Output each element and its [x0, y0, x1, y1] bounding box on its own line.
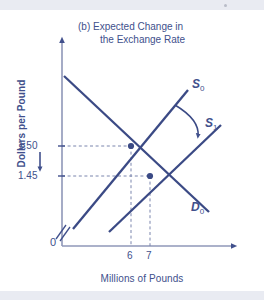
supply-shift-arrow: [175, 105, 198, 136]
demand-curve-d0: [64, 76, 209, 212]
demand-d0-subscript: 0: [200, 207, 204, 216]
x-axis-title: Millions of Pounds: [62, 273, 222, 284]
guide-lines: [62, 146, 150, 246]
y-axis-title: Dollars per Pound: [16, 65, 27, 183]
equilibrium-point-initial: [128, 143, 134, 149]
demand-d0-letter: D: [191, 200, 200, 214]
supply-s1-subscript: 1: [213, 123, 217, 132]
supply-s1-letter: S: [205, 116, 213, 130]
x-tick-label-6: 6: [127, 250, 133, 261]
demand-curve-d0-label: D0: [191, 200, 204, 216]
chart-title-line-2: the Exchange Rate: [78, 33, 246, 46]
y-tick-label-145: 1.45: [18, 170, 37, 181]
x-tick-label-7: 7: [146, 250, 152, 261]
supply-curve-s1-label: S1: [205, 116, 217, 132]
chart-title: (b) Expected Change in the Exchange Rate: [78, 20, 246, 46]
supply-s0-subscript: 0: [200, 84, 204, 93]
chart-title-line-1: (b) Expected Change in: [78, 20, 246, 33]
equilibrium-point-new: [147, 173, 153, 179]
supply-s0-letter: S: [192, 77, 200, 91]
supply-curve-s0-label: S0: [192, 77, 204, 93]
figure-container: (b) Expected Change in the Exchange Rate…: [0, 0, 264, 300]
origin-label: 0: [50, 236, 56, 248]
supply-curve-s1: [109, 125, 221, 232]
y-tick-label-150: 1.50: [18, 140, 37, 151]
axis-break-mark: [56, 225, 70, 241]
